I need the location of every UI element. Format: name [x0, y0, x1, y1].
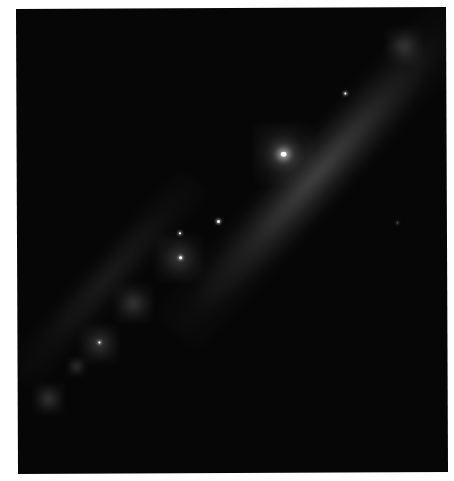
star-point	[344, 92, 346, 94]
galaxy-image-frame	[16, 7, 448, 474]
diffuse-knot	[386, 28, 422, 64]
star-point	[179, 232, 181, 234]
star-point	[217, 220, 220, 223]
star-point	[98, 342, 100, 344]
star-point	[397, 222, 398, 223]
star-point	[179, 256, 182, 259]
galaxy-core-point	[281, 152, 287, 157]
diffuse-knot	[68, 358, 86, 376]
diffuse-knot	[114, 284, 152, 322]
diffuse-knot	[34, 384, 64, 414]
